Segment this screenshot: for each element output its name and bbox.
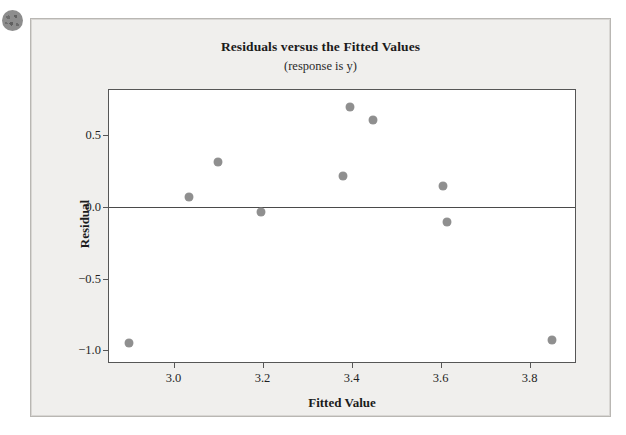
scatter-point	[369, 116, 377, 124]
plot-area: 0.50.0−0.5−1.0 3.03.23.43.63.8	[108, 89, 576, 363]
scatter-point	[125, 339, 133, 347]
x-axis-tick	[441, 362, 442, 368]
x-axis-tick-label: 3.0	[166, 371, 182, 386]
y-axis-tick	[103, 350, 109, 351]
y-axis-tick	[103, 207, 109, 208]
scatter-point	[339, 172, 347, 180]
scatter-point	[548, 336, 556, 344]
x-axis-title: Fitted Value	[108, 395, 576, 411]
screenshot-root: Residuals versus the Fitted Values (resp…	[0, 0, 626, 435]
scatter-point	[257, 208, 265, 216]
y-axis-tick-label: −0.5	[78, 271, 101, 286]
x-axis-tick	[352, 362, 353, 368]
scatter-point	[185, 193, 193, 201]
x-axis-tick-label: 3.2	[255, 371, 271, 386]
x-axis-tick-label: 3.4	[344, 371, 360, 386]
x-axis-tick-label: 3.6	[433, 371, 449, 386]
y-axis-tick	[103, 135, 109, 136]
scatter-point	[214, 158, 222, 166]
y-axis-tick-label: −1.0	[78, 343, 101, 358]
scatter-point	[439, 182, 447, 190]
x-axis-tick-label: 3.8	[522, 371, 538, 386]
page-title: Residuals versus the Fitted Values	[31, 39, 610, 55]
x-axis-tick	[530, 362, 531, 368]
x-axis-tick	[174, 362, 175, 368]
scatter-point	[443, 218, 451, 226]
zero-reference-line	[109, 207, 575, 208]
chart-subtitle: (response is y)	[31, 59, 610, 74]
y-axis-tick-label: 0.5	[85, 127, 101, 142]
bullet-dot-icon	[2, 10, 23, 31]
y-axis-title: Residual	[77, 200, 93, 248]
figure-panel: Residuals versus the Fitted Values (resp…	[30, 18, 611, 417]
y-axis-tick	[103, 279, 109, 280]
x-axis-tick	[263, 362, 264, 368]
scatter-point	[346, 103, 354, 111]
